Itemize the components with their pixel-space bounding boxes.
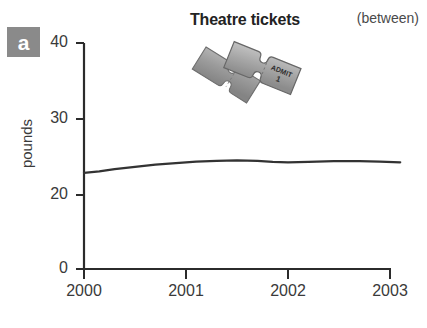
y-tick-label-40: 40 [26, 33, 68, 51]
x-tick-label-2002: 2002 [253, 282, 323, 300]
x-tick-label-2003: 2003 [355, 282, 425, 300]
x-tick-label-2000: 2000 [49, 282, 119, 300]
x-tick-label-2001: 2001 [151, 282, 221, 300]
y-tick-label-20: 20 [26, 185, 68, 203]
data-line-theatre-tickets [84, 160, 400, 173]
chart-figure: a Theatre tickets (between) pounds [0, 0, 427, 328]
y-tick-label-30: 30 [26, 109, 68, 127]
y-tick-label-0: 0 [26, 259, 68, 277]
